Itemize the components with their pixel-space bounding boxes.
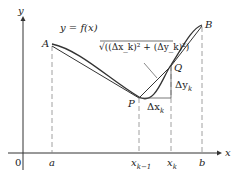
- tick-xk-minus-1: xk−1: [131, 158, 151, 171]
- point-b-label: B: [205, 20, 212, 30]
- delta-x-label: Δxk: [147, 102, 164, 115]
- y-axis-label: y: [18, 6, 24, 16]
- point-a-label: A: [42, 39, 49, 49]
- tick-a: a: [49, 158, 55, 168]
- tick-b: b: [199, 158, 205, 168]
- tick-xk: xk: [167, 158, 177, 171]
- segment-length-formula: √((Δx_k)² + (Δy_k)²): [99, 43, 189, 52]
- function-label: y = f(x): [60, 23, 98, 33]
- delta-y-label: Δyk: [175, 80, 192, 93]
- x-axis-label: x: [225, 148, 231, 158]
- y-axis-arrow-icon: [21, 16, 26, 21]
- origin-label: 0: [15, 158, 21, 168]
- formula-leader-line: [144, 63, 157, 78]
- x-axis-arrow-icon: [217, 151, 222, 156]
- point-q-label: Q: [174, 63, 182, 73]
- point-p-label: P: [128, 99, 135, 109]
- diagram-graphics: [0, 0, 233, 178]
- arc-length-diagram: y x 0 y = f(x) A B P Q √((Δx_k)² + (Δy_k…: [0, 0, 233, 178]
